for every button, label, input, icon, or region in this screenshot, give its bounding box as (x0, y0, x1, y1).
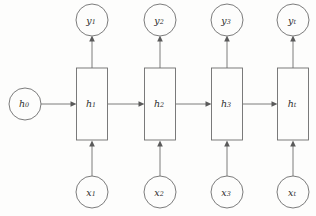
node-x3[interactable]: x3 (211, 176, 243, 208)
diagram-canvas: h0 h1 h2 h3 ht (0, 0, 316, 216)
edge-ht-yt (290, 36, 296, 69)
edge-h1-y1 (89, 36, 95, 69)
node-x1[interactable]: x1 (76, 176, 108, 208)
node-h0[interactable]: h0 (9, 88, 41, 120)
edge-x1-h1 (89, 141, 95, 177)
node-yt[interactable]: yt (277, 4, 309, 36)
edge-h2-y2 (157, 36, 163, 69)
edge-h2-h3 (176, 101, 212, 107)
edge-x2-h2 (157, 141, 163, 177)
node-ht[interactable]: ht (278, 68, 309, 140)
node-xt-subscript: t (293, 190, 296, 198)
edge-x3-h3 (224, 141, 230, 177)
node-ht-subscript: t (294, 101, 297, 109)
node-y2-subscript: 2 (159, 18, 164, 26)
node-y3-subscript: 3 (227, 18, 231, 26)
node-yt-subscript: t (293, 18, 296, 26)
node-x2[interactable]: x2 (144, 176, 176, 208)
node-h2[interactable]: h2 (145, 68, 176, 140)
node-y1[interactable]: y1 (76, 4, 108, 36)
node-y1-subscript: 1 (92, 18, 96, 26)
node-h3-subscript: 3 (227, 101, 231, 109)
node-h1-subscript: 1 (92, 101, 96, 109)
rnn-unrolled-diagram: h0 h1 h2 h3 ht (0, 0, 316, 216)
edge-h0-h1 (41, 101, 77, 107)
edge-h3-y3 (224, 36, 230, 69)
node-h0-subscript: 0 (25, 101, 29, 109)
node-h1[interactable]: h1 (77, 68, 108, 140)
node-y2[interactable]: y2 (144, 4, 176, 36)
node-y3[interactable]: y3 (211, 4, 243, 36)
node-x3-subscript: 3 (227, 190, 231, 198)
node-h3[interactable]: h3 (212, 68, 243, 140)
node-h2-subscript: 2 (159, 101, 164, 109)
node-x1-subscript: 1 (92, 190, 96, 198)
edge-h1-h2 (108, 101, 145, 107)
edge-xt-ht (290, 141, 296, 177)
node-x2-subscript: 2 (159, 190, 164, 198)
edge-h3-ht (243, 101, 278, 107)
node-xt[interactable]: xt (277, 176, 309, 208)
